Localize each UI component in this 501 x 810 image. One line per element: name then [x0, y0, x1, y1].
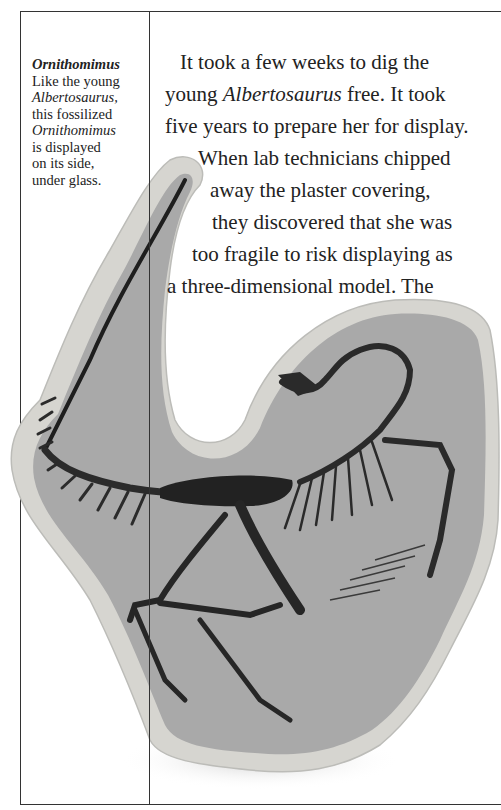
caption-line: Like the young [32, 73, 144, 90]
body-line: When lab technicians chipped [198, 142, 450, 174]
body-text-span: young [165, 82, 223, 106]
body-text-span: free. It took [342, 82, 446, 106]
body-line: they discovered that she was [212, 206, 452, 238]
sidebar-caption: Ornithomimus Like the young Albertosauru… [32, 56, 144, 188]
body-line: It took a few weeks to dig the [180, 46, 429, 78]
body-line: young Albertosaurus free. It took [165, 78, 446, 110]
body-line: a three-dimensional model. The [167, 270, 434, 302]
caption-line-italic: Ornithomimus [32, 122, 116, 138]
body-line: five years to prepare her for display. [165, 110, 469, 142]
page-frame-bottom [20, 804, 501, 805]
body-line: too fragile to risk displaying as [192, 238, 453, 270]
body-line: away the plaster covering, [210, 174, 430, 206]
caption-line: on its side, [32, 155, 144, 172]
body-italic-span: Albertosaurus [223, 82, 342, 106]
caption-line: under glass. [32, 172, 144, 189]
caption-title: Ornithomimus [32, 56, 144, 73]
page-frame-top [21, 11, 501, 12]
caption-line-italic: Albertosaurus, [32, 89, 118, 105]
caption-line: this fossilized [32, 106, 144, 123]
caption-line: is displayed [32, 139, 144, 156]
column-divider [149, 11, 150, 805]
